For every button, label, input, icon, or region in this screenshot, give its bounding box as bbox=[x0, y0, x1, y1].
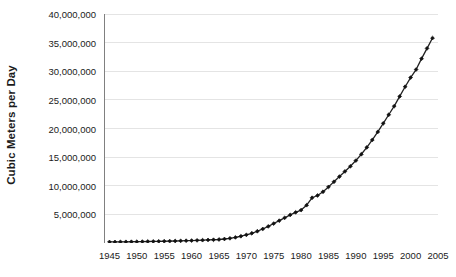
data-point-marker bbox=[173, 239, 177, 243]
y-axis-title-text: Cubic Meters per Day bbox=[5, 65, 17, 185]
data-point-marker bbox=[239, 234, 243, 238]
plot-svg bbox=[104, 14, 438, 243]
x-axis-tick-label: 2005 bbox=[427, 250, 448, 261]
y-axis-tick-label: 25,000,000 bbox=[48, 94, 96, 105]
series-markers bbox=[108, 36, 435, 243]
plot-area bbox=[104, 14, 438, 243]
data-point-marker bbox=[250, 231, 254, 235]
x-axis-tick-label: 1985 bbox=[318, 250, 339, 261]
data-point-marker bbox=[146, 240, 150, 243]
data-point-marker bbox=[151, 240, 155, 243]
x-axis-tick-label: 1970 bbox=[236, 250, 257, 261]
series-line bbox=[109, 38, 432, 242]
y-axis-tick-label: 10,000,000 bbox=[48, 180, 96, 191]
data-point-marker bbox=[206, 238, 210, 242]
line-chart: Cubic Meters per Day 5,000,00010,000,000… bbox=[0, 0, 456, 277]
data-point-marker bbox=[212, 238, 216, 242]
x-axis-tick-label: 1995 bbox=[373, 250, 394, 261]
data-point-marker bbox=[228, 236, 232, 240]
y-axis-tick-label: 40,000,000 bbox=[48, 9, 96, 20]
data-point-marker bbox=[108, 240, 112, 243]
x-axis-tick-label: 1945 bbox=[99, 250, 120, 261]
data-point-marker bbox=[113, 240, 117, 243]
data-point-marker bbox=[234, 235, 238, 239]
data-point-marker bbox=[179, 239, 183, 243]
x-axis-tick-label: 1965 bbox=[208, 250, 229, 261]
x-axis-tick-label: 1960 bbox=[181, 250, 202, 261]
y-axis-tick-labels: 5,000,00010,000,00015,000,00020,000,0002… bbox=[22, 0, 100, 277]
data-point-marker bbox=[255, 229, 259, 233]
x-axis-tick-labels: 1945195019551960196519701975198019851990… bbox=[104, 250, 438, 270]
data-point-marker bbox=[223, 237, 227, 241]
y-axis-tick-label: 20,000,000 bbox=[48, 123, 96, 134]
data-point-marker bbox=[135, 240, 139, 243]
y-axis-tick-label: 35,000,000 bbox=[48, 37, 96, 48]
data-point-marker bbox=[124, 240, 128, 243]
data-point-marker bbox=[201, 238, 205, 242]
data-point-marker bbox=[162, 239, 166, 243]
data-point-marker bbox=[119, 240, 123, 243]
data-point-marker bbox=[244, 233, 248, 237]
y-axis-tick-label: 15,000,000 bbox=[48, 152, 96, 163]
data-point-marker bbox=[195, 238, 199, 242]
y-axis-tick-label: 5,000,000 bbox=[54, 209, 96, 220]
x-axis-tick-label: 1975 bbox=[263, 250, 284, 261]
data-point-marker bbox=[129, 240, 133, 243]
data-point-marker bbox=[168, 239, 172, 243]
x-axis-tick-label: 2000 bbox=[400, 250, 421, 261]
x-axis-tick-label: 1955 bbox=[154, 250, 175, 261]
y-axis-title: Cubic Meters per Day bbox=[0, 0, 22, 250]
data-point-marker bbox=[140, 240, 144, 243]
data-point-marker bbox=[190, 239, 194, 243]
x-axis-tick-label: 1990 bbox=[345, 250, 366, 261]
x-axis-tick-label: 1980 bbox=[291, 250, 312, 261]
x-axis-tick-label: 1950 bbox=[126, 250, 147, 261]
data-point-marker bbox=[157, 239, 161, 243]
data-point-marker bbox=[217, 238, 221, 242]
data-point-marker bbox=[184, 239, 188, 243]
y-axis-tick-label: 30,000,000 bbox=[48, 66, 96, 77]
